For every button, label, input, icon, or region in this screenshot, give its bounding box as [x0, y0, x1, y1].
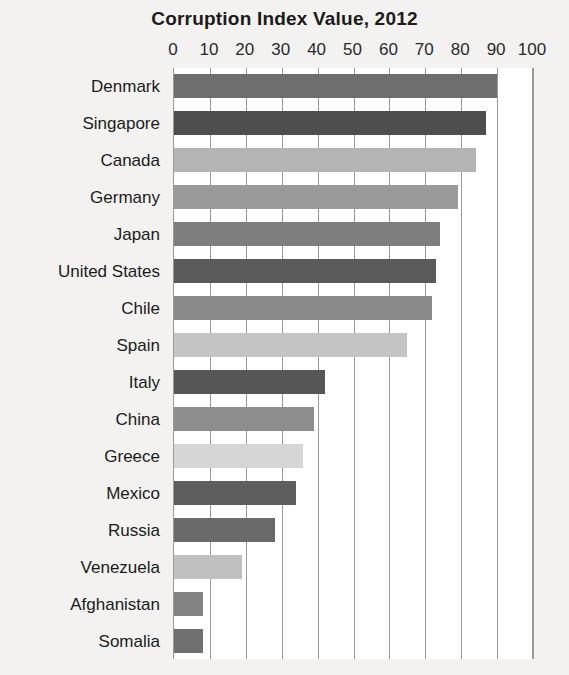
bar-japan	[174, 222, 440, 246]
bar-row	[174, 629, 533, 653]
bar-spain	[174, 333, 407, 357]
category-label-chile: Chile	[121, 300, 160, 317]
bar-row	[174, 296, 533, 320]
bar-row	[174, 222, 533, 246]
bar-china	[174, 407, 314, 431]
y-axis-category-labels: DenmarkSingaporeCanadaGermanyJapanUnited…	[0, 68, 168, 659]
x-axis-tick-labels: 0102030405060708090100	[173, 40, 533, 64]
x-tick-label-20: 20	[235, 40, 254, 60]
bar-row	[174, 111, 533, 135]
category-label-somalia: Somalia	[99, 633, 160, 650]
category-label-singapore: Singapore	[82, 115, 160, 132]
bar-somalia	[174, 629, 203, 653]
category-label-venezuela: Venezuela	[81, 559, 160, 576]
x-tick-label-40: 40	[307, 40, 326, 60]
bar-row	[174, 592, 533, 616]
category-label-greece: Greece	[104, 448, 160, 465]
bar-canada	[174, 148, 476, 172]
x-tick-label-70: 70	[415, 40, 434, 60]
bar-row	[174, 370, 533, 394]
x-tick-label-60: 60	[379, 40, 398, 60]
x-tick-label-30: 30	[271, 40, 290, 60]
bar-united-states	[174, 259, 436, 283]
bar-russia	[174, 518, 275, 542]
bar-series	[174, 68, 533, 659]
x-tick-label-100: 100	[518, 40, 546, 60]
bar-row	[174, 333, 533, 357]
chart-title: Corruption Index Value, 2012	[0, 8, 569, 30]
category-label-canada: Canada	[100, 152, 160, 169]
category-label-denmark: Denmark	[91, 78, 160, 95]
bar-venezuela	[174, 555, 242, 579]
bar-denmark	[174, 74, 497, 98]
category-label-afghanistan: Afghanistan	[70, 596, 160, 613]
category-label-spain: Spain	[117, 337, 160, 354]
bar-row	[174, 518, 533, 542]
category-label-china: China	[116, 411, 160, 428]
bar-row	[174, 74, 533, 98]
x-tick-label-80: 80	[451, 40, 470, 60]
x-tick-label-0: 0	[168, 40, 177, 60]
bar-chile	[174, 296, 432, 320]
bar-row	[174, 444, 533, 468]
category-label-russia: Russia	[108, 522, 160, 539]
bar-mexico	[174, 481, 296, 505]
chart-figure: Corruption Index Value, 2012 01020304050…	[0, 0, 569, 675]
bar-row	[174, 407, 533, 431]
category-label-germany: Germany	[90, 189, 160, 206]
x-tick-label-90: 90	[487, 40, 506, 60]
category-label-united-states: United States	[58, 263, 160, 280]
category-label-italy: Italy	[129, 374, 160, 391]
category-label-japan: Japan	[114, 226, 160, 243]
gridline-100	[533, 68, 534, 659]
bar-row	[174, 148, 533, 172]
bar-italy	[174, 370, 325, 394]
bar-singapore	[174, 111, 486, 135]
category-label-mexico: Mexico	[106, 485, 160, 502]
bar-row	[174, 185, 533, 209]
bar-afghanistan	[174, 592, 203, 616]
bar-greece	[174, 444, 303, 468]
plot-area	[173, 68, 533, 659]
bar-row	[174, 555, 533, 579]
bar-row	[174, 481, 533, 505]
x-tick-label-50: 50	[343, 40, 362, 60]
bar-germany	[174, 185, 458, 209]
bar-row	[174, 259, 533, 283]
x-tick-label-10: 10	[199, 40, 218, 60]
